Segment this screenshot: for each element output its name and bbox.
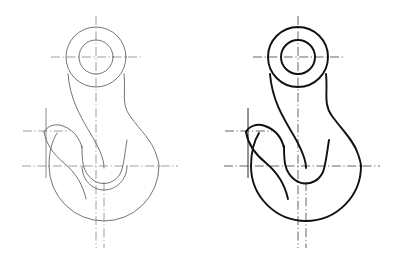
left-shank-left-edge [68, 74, 104, 168]
left-throat-inner-arc [82, 140, 127, 183]
right-bowl-outer-arc [251, 166, 361, 221]
right-throat-inner-arc [284, 140, 329, 183]
left-barb-upper-edge [44, 125, 82, 148]
right-view-centerlines [224, 16, 380, 248]
hook-drawing-sheet [0, 0, 398, 260]
right-view-group [224, 16, 380, 248]
right-shank-left-edge [270, 74, 306, 168]
left-bowl-inner-lower-arc [82, 166, 127, 190]
left-view-outlines [44, 27, 159, 221]
left-bowl-outer-arc [49, 166, 159, 221]
left-shank-right-edge [124, 74, 159, 166]
right-barb-upper-edge [246, 125, 284, 148]
right-shank-right-edge [326, 74, 361, 166]
right-bowl-left-outer-edge [251, 133, 259, 166]
left-view-group [22, 16, 178, 248]
left-bowl-left-outer-edge [49, 133, 57, 166]
right-view-outlines [246, 27, 361, 221]
left-view-centerlines [22, 16, 178, 248]
drawing-canvas [0, 0, 398, 260]
